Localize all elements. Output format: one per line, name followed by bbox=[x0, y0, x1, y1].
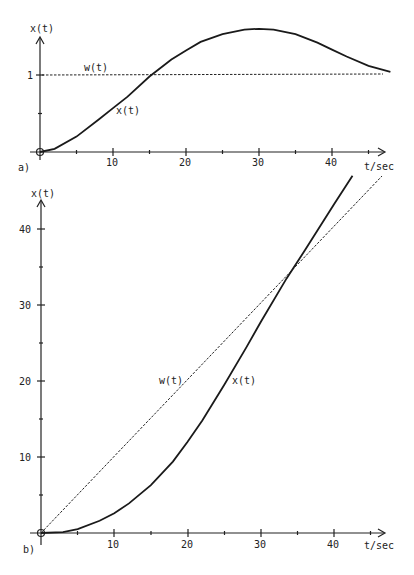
x-tick-label-20: 20 bbox=[181, 539, 193, 550]
x-tick-label-10: 10 bbox=[106, 157, 118, 168]
legend-x-label-a: x(t) bbox=[116, 105, 140, 116]
x-tick-label-40: 40 bbox=[325, 157, 337, 168]
legend-w-label-b: w(t) bbox=[159, 375, 183, 386]
x-axis-label-a: t/sec bbox=[364, 161, 394, 172]
legend-x-label-b: x(t) bbox=[232, 375, 256, 386]
series-w-line-a bbox=[42, 74, 383, 75]
series-x-curve-a bbox=[40, 29, 390, 152]
x-axis-label-b: t/sec bbox=[364, 540, 394, 551]
panel-label-a: a) bbox=[18, 162, 30, 173]
y-tick-label-40: 40 bbox=[19, 224, 31, 235]
panel-label-b: b) bbox=[23, 544, 35, 555]
series-w-line-b bbox=[41, 176, 382, 533]
y-tick-label-20: 20 bbox=[19, 376, 31, 387]
figure: 1 10 20 30 40 x(t) t/sec a) w(t) x(t) bbox=[0, 0, 414, 575]
chart-panel-b: 10 20 30 40 10 20 30 40 x(t) t/sec b) w(… bbox=[19, 176, 394, 555]
y-axis-label-b: x(t) bbox=[31, 188, 55, 199]
y-tick-label-10: 10 bbox=[19, 452, 31, 463]
series-x-curve-b bbox=[41, 176, 353, 533]
x-tick-label-10: 10 bbox=[107, 539, 119, 550]
y-axis-label-a: x(t) bbox=[30, 23, 54, 34]
y-tick-label-1: 1 bbox=[27, 70, 33, 81]
chart-panel-a: 1 10 20 30 40 x(t) t/sec a) w(t) x(t) bbox=[18, 23, 394, 173]
x-tick-label-30: 30 bbox=[252, 157, 264, 168]
x-tick-label-40: 40 bbox=[327, 539, 339, 550]
x-tick-label-20: 20 bbox=[179, 157, 191, 168]
legend-w-label-a: w(t) bbox=[84, 62, 108, 73]
y-tick-label-30: 30 bbox=[19, 300, 31, 311]
x-tick-label-30: 30 bbox=[254, 539, 266, 550]
